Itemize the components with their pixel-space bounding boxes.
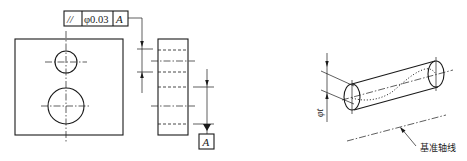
- cylinder-bottom-edge: [354, 87, 438, 110]
- zone-extension-upper: [321, 71, 354, 86]
- datum-axis-line: [347, 115, 446, 141]
- side-view: [151, 39, 195, 135]
- front-view: [15, 31, 123, 143]
- datum-triangle: [203, 124, 211, 131]
- fcf-datum-ref: A: [115, 13, 123, 25]
- datum-letter: A: [202, 136, 210, 148]
- leader-arrow-up: [140, 72, 144, 78]
- datum-arrow: [205, 80, 209, 86]
- tolerance-value: φ0.03: [84, 14, 108, 25]
- actual-axis-curve: [352, 69, 436, 100]
- datum-a-indicator: A: [193, 69, 214, 149]
- dim-arrow-down: [325, 61, 328, 67]
- dim-arrow-up: [325, 93, 328, 99]
- parallelism-symbol: //: [66, 13, 74, 25]
- tolerance-zone-figure: φt 基准轴线: [314, 53, 456, 153]
- leader-arrow-down: [140, 41, 144, 47]
- fcf-leader: [128, 18, 142, 93]
- cylinder-top-edge: [352, 61, 435, 84]
- drawing-canvas: // φ0.03 A A φt: [0, 0, 467, 161]
- feature-control-frame: // φ0.03 A: [64, 11, 153, 93]
- plate-outline: [15, 39, 123, 135]
- datum-axis-label: 基准轴线: [420, 142, 456, 153]
- zone-diameter-label: φt: [314, 108, 325, 117]
